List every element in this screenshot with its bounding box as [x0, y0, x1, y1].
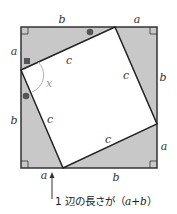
label-top-b: b [58, 14, 65, 25]
label-right-b: b [159, 72, 166, 83]
label-c-top: c [66, 55, 72, 66]
label-left-b: b [10, 115, 17, 126]
circle-angle-marker-top [87, 29, 94, 36]
label-c-right: c [123, 70, 129, 81]
square-angle-marker [24, 58, 30, 64]
diagram-svg [0, 0, 177, 214]
label-top-a: a [134, 14, 141, 25]
caption-plus: + [131, 195, 140, 207]
label-left-a: a [11, 46, 18, 57]
caption: 1 辺の長さが（a+b） [55, 196, 157, 207]
label-bottom-a: a [41, 170, 48, 181]
label-c-bottom: c [105, 134, 111, 145]
label-bottom-b: b [112, 172, 119, 183]
circle-angle-marker-left [23, 93, 30, 100]
caption-var-b: b [140, 195, 147, 207]
pythagorean-diagram: b a a b b a a b c c c c x 1 辺の長さが（a+b） [0, 0, 177, 214]
label-c-left: c [47, 114, 53, 125]
arrow-head-icon [50, 172, 55, 178]
label-right-a: a [161, 141, 168, 152]
caption-prefix: 1 辺の長さが（ [55, 195, 125, 207]
label-angle-x: x [46, 78, 52, 89]
caption-suffix: ） [147, 195, 157, 207]
